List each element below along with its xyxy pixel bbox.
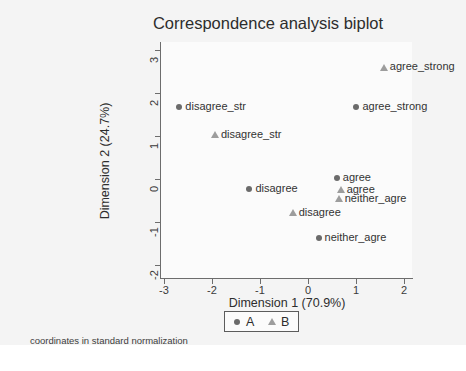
y-tick-label: 1 xyxy=(148,136,160,156)
figure-panel: Correspondence analysis biplot 3210-1-2 … xyxy=(0,0,466,345)
circle-marker-icon xyxy=(334,175,340,181)
x-axis-line xyxy=(161,278,413,279)
triangle-marker-icon xyxy=(289,209,297,216)
triangle-marker-icon xyxy=(335,195,343,202)
data-point-label: disagree xyxy=(299,206,341,218)
data-point-label: disagree xyxy=(255,182,297,194)
circle-marker-icon xyxy=(234,319,240,325)
screenshot-root: Correspondence analysis biplot 3210-1-2 … xyxy=(0,0,466,371)
data-point-label: disagree_str xyxy=(221,128,282,140)
x-tick-label: -2 xyxy=(200,284,224,296)
y-tick-label-wrapper: 1 xyxy=(134,130,154,142)
y-tick-label: 3 xyxy=(148,50,160,70)
triangle-marker-icon xyxy=(211,131,219,138)
y-axis-title-wrapper: Dimension 2 (24.7%) xyxy=(96,42,114,279)
data-point-label: neither_agre xyxy=(325,231,387,243)
y-tick-label: -2 xyxy=(148,265,160,285)
x-tick-label: 0 xyxy=(296,284,320,296)
y-tick-label: 0 xyxy=(148,179,160,199)
x-axis-title: Dimension 1 (70.9%) xyxy=(161,296,413,310)
x-tick-label: 1 xyxy=(344,284,368,296)
y-tick-label-wrapper: -1 xyxy=(134,216,154,228)
y-tick-label: 2 xyxy=(148,93,160,113)
legend-label: B xyxy=(281,315,289,329)
data-point-label: agree_strong xyxy=(362,100,427,112)
y-tick-label-wrapper: -2 xyxy=(134,259,154,271)
chart-footnote: coordinates in standard normalization xyxy=(30,335,188,346)
x-tick-label: 2 xyxy=(392,284,416,296)
data-point-label: agree xyxy=(343,171,371,183)
y-tick-label-wrapper: 0 xyxy=(134,173,154,185)
y-tick-label-wrapper: 2 xyxy=(134,87,154,99)
legend-label: A xyxy=(246,315,254,329)
y-tick-label: -1 xyxy=(148,222,160,242)
y-tick-label-wrapper: 3 xyxy=(134,44,154,56)
data-point-label: neither_agre xyxy=(345,192,407,204)
y-axis-title: Dimension 2 (24.7%) xyxy=(98,102,112,219)
data-point-label: disagree_str xyxy=(185,100,246,112)
circle-marker-icon xyxy=(316,235,322,241)
x-tick-label: -1 xyxy=(248,284,272,296)
chart-legend: AB xyxy=(224,311,299,332)
y-axis-line xyxy=(160,42,161,279)
triangle-marker-icon xyxy=(337,186,345,193)
chart-title: Correspondence analysis biplot xyxy=(118,14,418,33)
triangle-marker-icon xyxy=(380,64,388,71)
x-tick-label: -3 xyxy=(152,284,176,296)
data-point-label: agree_strong xyxy=(390,60,455,72)
triangle-marker-icon xyxy=(268,318,276,325)
